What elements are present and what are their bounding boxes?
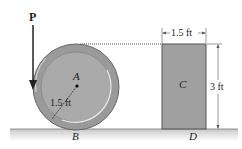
spool-center-label: A: [73, 71, 80, 82]
spool-radius-label: 1.5 ft: [50, 98, 71, 108]
block-contact-label: D: [189, 131, 197, 142]
spool: [33, 44, 119, 130]
ground: [10, 129, 238, 141]
force-label: P: [29, 11, 36, 23]
spool-contact-label: B: [72, 131, 79, 142]
block-height-label: 3 ft: [210, 82, 224, 92]
block-width-label: 1.5 ft: [171, 28, 192, 38]
block-label: C: [179, 79, 186, 90]
